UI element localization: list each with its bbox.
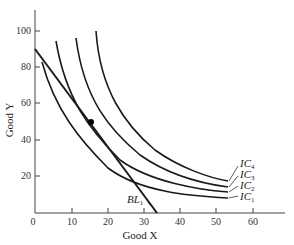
x-tick-50: 50 <box>211 216 221 227</box>
tangency-point <box>88 119 94 125</box>
indifference-curves <box>42 31 228 198</box>
y-tick-60: 60 <box>21 97 31 108</box>
x-tick-20: 20 <box>103 216 113 227</box>
x-ticks <box>72 208 253 213</box>
ic4-label: IC4 <box>239 157 255 171</box>
y-tick-40: 40 <box>21 134 31 145</box>
x-tick-60: 60 <box>248 216 258 227</box>
y-axis-title: Good Y <box>3 103 15 138</box>
x-tick-0: 0 <box>31 216 36 227</box>
x-tick-10: 10 <box>67 216 77 227</box>
x-tick-30: 30 <box>139 216 149 227</box>
y-tick-80: 80 <box>21 61 31 72</box>
x-axis-title: Good X <box>122 229 157 241</box>
x-tick-labels: 0 10 20 30 40 50 60 <box>31 216 259 227</box>
x-tick-40: 40 <box>175 216 185 227</box>
ic3-curve <box>76 38 228 187</box>
indifference-curve-chart: 20 40 60 80 100 0 10 20 30 40 50 60 Good… <box>0 0 294 245</box>
y-tick-100: 100 <box>16 25 31 36</box>
budget-line-label: BL1 <box>127 193 144 207</box>
ic-leaders <box>229 166 238 198</box>
y-tick-labels: 20 40 60 80 100 <box>16 25 31 181</box>
ic2-curve <box>56 41 228 192</box>
y-tick-20: 20 <box>21 170 31 181</box>
budget-line <box>35 49 157 213</box>
